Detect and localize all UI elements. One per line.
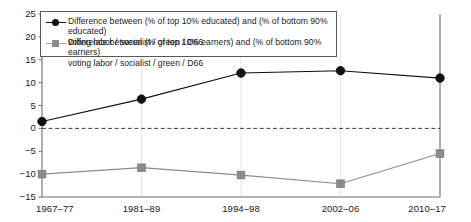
data-point-marker xyxy=(237,171,245,179)
y-tick-label: −15 xyxy=(4,191,36,202)
legend-label-educated-line1: Difference between (% of top 10% educate… xyxy=(68,16,328,36)
data-point-marker xyxy=(436,74,444,82)
legend-label-earners-line2: voting labor / socialist / green / D66 xyxy=(68,58,203,68)
data-point-marker xyxy=(337,180,345,188)
chart-figure: −15−10−50510152025 1967–771981–891994–98… xyxy=(0,0,471,222)
y-tick-label: 10 xyxy=(4,77,36,88)
data-point-marker xyxy=(137,95,145,103)
x-tick-label: 1967–77 xyxy=(36,203,106,214)
y-tick-label: 0 xyxy=(4,122,36,133)
data-point-marker xyxy=(38,170,46,178)
y-tick-label: 15 xyxy=(4,54,36,65)
data-point-marker xyxy=(38,117,46,125)
y-tick-label: 5 xyxy=(4,100,36,111)
x-tick-label: 1994–98 xyxy=(206,203,276,214)
legend-label-earners-line1: Difference between (% of top 10% earners… xyxy=(68,37,321,57)
chart-legend: Difference between (% of top 10% educate… xyxy=(40,11,337,57)
x-tick-label: 1981–89 xyxy=(107,203,177,214)
data-point-marker xyxy=(237,69,245,77)
y-tick-label: 20 xyxy=(4,31,36,42)
data-point-marker xyxy=(138,164,146,172)
data-point-marker xyxy=(336,67,344,75)
x-tick-label: 2002–06 xyxy=(306,203,376,214)
y-tick-label: −5 xyxy=(4,145,36,156)
legend-item-earners: Difference between (% of top 10% earners… xyxy=(46,37,334,68)
data-point-marker xyxy=(436,150,444,158)
y-tick-label: −10 xyxy=(4,168,36,179)
legend-marker-square-icon xyxy=(46,38,66,49)
legend-label-earners: Difference between (% of top 10% earners… xyxy=(66,37,334,68)
x-tick-label: 2010–17 xyxy=(376,203,446,214)
legend-marker-circle-icon xyxy=(46,17,66,28)
y-tick-label: 25 xyxy=(4,8,36,19)
